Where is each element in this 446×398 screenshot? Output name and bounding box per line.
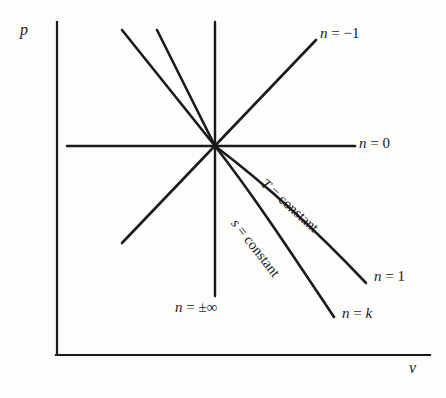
x-axis-label: v [409,360,416,376]
label-n-k-value: k [365,305,372,321]
label-n-0-symbol: n [359,135,367,151]
label-n-infinity-symbol: n [175,299,183,315]
polytropic-process-diagram: p v n = −1 n = 0 n = 1 n = k n = ±∞ T = … [0,0,446,398]
label-n-0-value: = 0 [367,135,390,151]
label-n-1-value: = 1 [382,268,405,284]
label-n-1-symbol: n [374,268,382,284]
label-n-infinity-value: = ±∞ [183,299,218,315]
process-line-steep [157,30,215,146]
label-n-infinity: n = ±∞ [175,300,217,315]
y-axis-label: p [20,22,28,38]
diagram-canvas [0,0,446,398]
process-line-steepest [122,30,215,146]
label-n-minus-1-value: = −1 [328,25,360,41]
label-n-k: n = k [342,306,372,321]
label-n-0: n = 0 [359,136,390,151]
label-n-k-symbol: n [342,305,350,321]
label-n-minus-1-symbol: n [320,25,328,41]
label-n-1: n = 1 [374,269,405,284]
label-n-k-equals: = [350,305,366,321]
label-n-minus-1: n = −1 [320,26,359,41]
